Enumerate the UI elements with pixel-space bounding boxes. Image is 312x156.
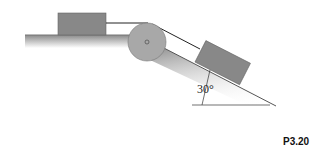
angle-label: 30° <box>197 82 214 96</box>
pulley-incline-diagram: 30° <box>0 0 312 156</box>
figure-label: P3.20 <box>283 136 309 147</box>
horizontal-surface <box>25 35 135 48</box>
pulley <box>128 23 166 61</box>
block-horizontal <box>58 13 106 35</box>
